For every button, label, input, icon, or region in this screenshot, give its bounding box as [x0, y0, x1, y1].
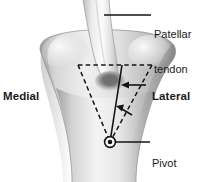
label-pivot-point-line1: Pivot: [152, 158, 176, 170]
label-patellar-tendon-line1: Patellar: [154, 29, 191, 41]
pivot-point-dot: [108, 140, 113, 145]
insertion-core: [102, 75, 118, 86]
label-medial: Medial: [3, 90, 39, 102]
pivot-point-marker: [105, 137, 116, 148]
label-patellar-tendon: Patellar tendon: [154, 6, 191, 98]
label-lateral: Lateral: [152, 90, 190, 102]
label-patellar-tendon-line2: tendon: [154, 64, 191, 76]
anatomy-figure-container: Patellar tendon Medial Lateral Pivot poi…: [0, 0, 206, 182]
label-pivot-point: Pivot point: [152, 135, 176, 182]
